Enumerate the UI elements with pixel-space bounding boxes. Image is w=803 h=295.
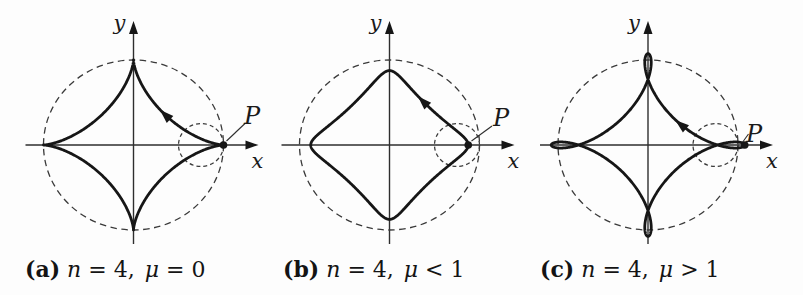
caption-panel-c: (c)n = 4,μ > 1	[540, 256, 720, 286]
caption-eq2: = 0	[166, 257, 205, 282]
y-axis-label: y	[369, 11, 383, 35]
caption-tag: (a)	[25, 256, 60, 282]
caption-var-n: n	[581, 257, 595, 282]
y-axis-arrow-icon	[644, 21, 653, 34]
caption-eq1: = 4,	[88, 257, 134, 282]
y-axis-label: y	[627, 11, 641, 35]
point-p-label: P	[243, 102, 261, 130]
point-p-dot	[220, 141, 228, 149]
panel-c: x y P	[540, 11, 778, 244]
point-p-leader-line	[227, 123, 246, 141]
caption-var-mu: μ	[659, 257, 673, 282]
caption-eq1: = 4,	[602, 257, 648, 282]
caption-tag: (c)	[540, 256, 574, 282]
point-p-label: P	[492, 104, 510, 132]
x-axis-label: x	[252, 149, 264, 173]
x-axis-label: x	[766, 149, 778, 173]
point-p-leader-line	[472, 126, 493, 141]
point-p-label: P	[745, 120, 763, 148]
caption-var-mu: μ	[145, 257, 159, 282]
caption-eq2: > 1	[680, 257, 719, 282]
caption-var-n: n	[326, 257, 340, 282]
figure-hypotrochoid-panels: x y P x y P	[0, 0, 803, 295]
y-axis-label: y	[113, 11, 127, 35]
y-axis-arrow-icon	[385, 21, 394, 34]
caption-eq1: = 4,	[347, 257, 393, 282]
y-axis-arrow-icon	[129, 21, 138, 34]
caption-var-mu: μ	[404, 257, 418, 282]
caption-panel-a: (a)n = 4,μ = 0	[25, 256, 205, 286]
point-p-dot	[464, 141, 472, 149]
caption-eq2: < 1	[425, 257, 464, 282]
panel-b: x y P	[282, 11, 520, 244]
caption-panel-b: (b)n = 4,μ < 1	[283, 256, 465, 286]
caption-var-n: n	[67, 257, 81, 282]
panel-a: x y P	[26, 11, 264, 244]
x-axis-label: x	[508, 149, 520, 173]
caption-tag: (b)	[283, 256, 319, 282]
diagram-canvas: x y P x y P	[0, 0, 803, 295]
